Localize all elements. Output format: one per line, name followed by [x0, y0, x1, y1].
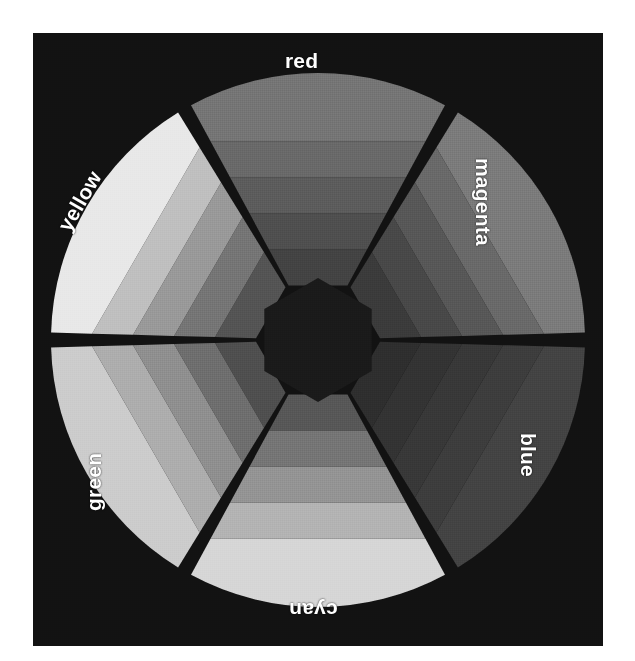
wedge-band-red-3	[230, 177, 406, 213]
wedge-band-cyan-2	[250, 431, 387, 467]
wedge-band-red-2	[250, 213, 387, 249]
wedge-band-cyan-3	[230, 467, 406, 503]
wedge-label-cyan: cyan	[289, 600, 338, 621]
wedge-label-magenta: magenta	[473, 158, 494, 246]
wedge-band-cyan-5	[191, 539, 445, 607]
wedge-band-cyan-4	[211, 503, 426, 539]
wedge-band-red-5	[191, 73, 445, 141]
wedge-band-red-4	[211, 141, 426, 177]
wedge-label-red: red	[285, 50, 318, 71]
center-hub	[264, 278, 371, 402]
hue-wheel-chart	[33, 33, 603, 646]
hue-wheel-plate: red magenta blue cyan green yellow	[33, 33, 603, 646]
wedge-label-green: green	[83, 453, 104, 511]
center-hub-hexagon	[264, 278, 371, 402]
wedge-label-blue: blue	[518, 433, 539, 477]
figure-canvas: red magenta blue cyan green yellow	[0, 0, 635, 661]
